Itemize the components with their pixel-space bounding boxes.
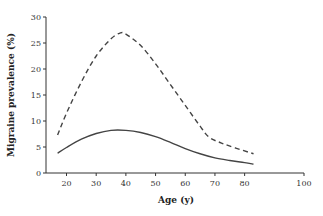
plot-lines <box>58 33 254 165</box>
x-tick-label: 30 <box>91 179 101 188</box>
y-tick-label: 25 <box>31 39 41 48</box>
x-tick-label: 50 <box>150 179 160 188</box>
y-tick-label: 15 <box>31 91 41 100</box>
y-axis-title: Migraine prevalence (%) <box>6 33 16 157</box>
solid-series-line <box>58 130 254 164</box>
y-tick-label: 0 <box>36 169 41 178</box>
x-tick-label: 40 <box>121 179 131 188</box>
y-tick-label: 10 <box>31 117 41 126</box>
x-tick-label: 60 <box>180 179 190 188</box>
y-tick-label: 20 <box>31 65 41 74</box>
y-tick-label: 5 <box>36 143 41 152</box>
chart: 05101520253020304050607080100 Age (y) Mi… <box>0 0 323 216</box>
x-axis-title: Age (y) <box>157 195 194 205</box>
y-tick-label: 30 <box>31 13 41 22</box>
x-tick-label: 100 <box>296 179 311 188</box>
x-tick-label: 20 <box>61 179 71 188</box>
x-tick-label: 70 <box>210 179 220 188</box>
dashed-series-line <box>58 33 254 154</box>
x-tick-label: 80 <box>240 179 250 188</box>
